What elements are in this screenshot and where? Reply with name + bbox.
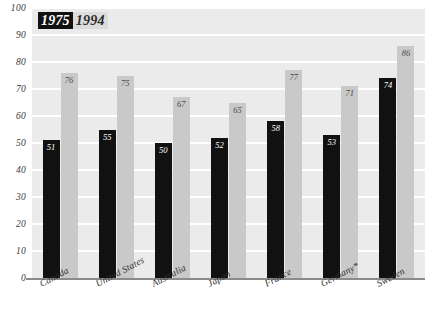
bar-value-label: 58 xyxy=(267,123,284,133)
plot-area: 5176557550675265587753717486 xyxy=(32,8,425,278)
bar-1975-france[interactable]: 58 xyxy=(267,121,284,278)
bar-value-label: 53 xyxy=(323,137,340,147)
y-axis-tick-label: 80 xyxy=(16,57,26,67)
bar-1994-sweden[interactable]: 86 xyxy=(397,46,414,278)
y-axis-tick-label: 40 xyxy=(16,165,26,175)
bar-group: 5877 xyxy=(267,8,302,278)
bar-value-label: 86 xyxy=(397,48,414,58)
y-axis-tick-label: 60 xyxy=(16,111,26,121)
bar-1994-australia[interactable]: 67 xyxy=(173,97,190,278)
bar-value-label: 75 xyxy=(117,78,134,88)
y-axis-tick-label: 30 xyxy=(16,192,26,202)
bar-1994-japan[interactable]: 65 xyxy=(229,103,246,279)
y-axis: 1009080706050403020100 xyxy=(0,8,30,278)
bar-1975-australia[interactable]: 50 xyxy=(155,143,172,278)
bar-group: 7486 xyxy=(379,8,414,278)
y-axis-tick-label: 10 xyxy=(16,246,26,256)
legend-item-1975[interactable]: 1975 xyxy=(38,12,73,29)
bar-1994-canada[interactable]: 76 xyxy=(61,73,78,278)
y-axis-tick-label: 100 xyxy=(11,3,26,13)
y-axis-tick-label: 90 xyxy=(16,30,26,40)
bar-value-label: 71 xyxy=(341,88,358,98)
bar-1975-unitedstates[interactable]: 55 xyxy=(99,130,116,279)
y-axis-tick-label: 50 xyxy=(16,138,26,148)
y-axis-tick-label: 70 xyxy=(16,84,26,94)
bar-group: 5265 xyxy=(211,8,246,278)
bar-value-label: 67 xyxy=(173,99,190,109)
bar-value-label: 77 xyxy=(285,72,302,82)
bar-group: 5575 xyxy=(99,8,134,278)
x-axis: CanadaUnited StatesAustraliaJapanFranceG… xyxy=(32,280,425,328)
bar-1975-canada[interactable]: 51 xyxy=(43,140,60,278)
bar-group: 5371 xyxy=(323,8,358,278)
bar-value-label: 50 xyxy=(155,145,172,155)
bar-group: 5176 xyxy=(43,8,78,278)
legend: 1975 1994 xyxy=(38,12,108,29)
bar-value-label: 74 xyxy=(379,80,396,90)
bar-chart: 1009080706050403020100 51765575506752655… xyxy=(0,0,436,328)
bar-1994-unitedstates[interactable]: 75 xyxy=(117,76,134,279)
bar-1975-japan[interactable]: 52 xyxy=(211,138,228,278)
bar-1994-germany[interactable]: 71 xyxy=(341,86,358,278)
bar-value-label: 52 xyxy=(211,140,228,150)
bar-group: 5067 xyxy=(155,8,190,278)
legend-item-1994[interactable]: 1994 xyxy=(73,12,108,29)
bar-value-label: 55 xyxy=(99,132,116,142)
bar-1975-sweden[interactable]: 74 xyxy=(379,78,396,278)
bar-1975-germany[interactable]: 53 xyxy=(323,135,340,278)
y-axis-tick-label: 20 xyxy=(16,219,26,229)
bar-value-label: 76 xyxy=(61,75,78,85)
bar-value-label: 51 xyxy=(43,142,60,152)
bar-1994-france[interactable]: 77 xyxy=(285,70,302,278)
bar-value-label: 65 xyxy=(229,105,246,115)
